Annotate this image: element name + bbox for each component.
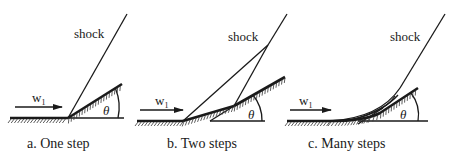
hatch-mark: [295, 122, 298, 126]
shock-line: [400, 14, 445, 88]
hatch-mark: [145, 122, 148, 126]
hatch-mark: [173, 122, 176, 126]
hatch-mark: [285, 122, 288, 126]
hatch-mark: [154, 122, 157, 126]
shock-label: shock: [390, 29, 421, 44]
hatch-mark: [314, 122, 317, 126]
panel-caption: b. Two steps: [167, 136, 237, 151]
hatch-mark: [30, 119, 33, 123]
flow-label: w1: [32, 90, 45, 107]
hatch-mark: [141, 122, 144, 126]
hatch-mark: [56, 119, 59, 123]
angle-label: θ: [103, 103, 110, 118]
hatch-mark: [27, 119, 30, 123]
shock-diagram: shock w1 θ a. One step shock w1 θ b. Two…: [0, 0, 454, 161]
hatch-mark: [138, 122, 141, 126]
hatch-mark: [37, 119, 40, 123]
shock-label: shock: [74, 26, 105, 41]
hatch-mark: [59, 119, 62, 123]
angle-arc: [411, 93, 419, 121]
hatch-mark: [301, 122, 304, 126]
hatch-mark: [164, 122, 167, 126]
hatch-mark: [8, 119, 11, 123]
hatch-mark: [50, 119, 53, 123]
hatch-mark: [43, 119, 46, 123]
hatch-mark: [24, 119, 27, 123]
shock-label: shock: [228, 29, 259, 44]
hatch-mark: [148, 122, 151, 126]
hatch-mark: [320, 122, 323, 126]
hatch-mark: [21, 119, 24, 123]
hatch-mark: [18, 119, 21, 123]
panel-many-steps: shock w1 θ c. Many steps: [287, 14, 445, 151]
hatch-mark: [345, 121, 348, 125]
hatch-mark: [14, 119, 17, 123]
hatch-mark: [40, 119, 43, 123]
hatch-mark: [151, 122, 154, 126]
shock-line-merged: [268, 14, 287, 45]
hatch-mark: [304, 122, 307, 126]
hatch-mark: [341, 122, 344, 126]
hatch-mark: [311, 122, 314, 126]
hatch-mark: [157, 122, 160, 126]
hatch-mark: [351, 121, 354, 125]
flow-label: w1: [155, 93, 168, 110]
hatch-mark: [53, 119, 56, 123]
hatch-mark: [170, 122, 173, 126]
hatch-mark: [46, 119, 49, 123]
hatch-mark: [353, 121, 355, 125]
hatch-mark: [62, 119, 65, 123]
hatch-mark: [161, 122, 164, 126]
angle-arc: [116, 89, 120, 119]
hatch-mark: [323, 122, 326, 126]
hatch-mark: [338, 122, 341, 126]
angle-label: θ: [248, 107, 255, 122]
hatch-mark: [291, 122, 294, 126]
hatch-mark: [331, 122, 334, 126]
hatch-mark: [335, 122, 338, 126]
hatch-mark: [135, 122, 138, 126]
panel-caption: a. One step: [27, 136, 90, 151]
flow-label: w1: [299, 93, 312, 110]
panel-one-step: shock w1 θ a. One step: [10, 14, 127, 151]
hatch-mark: [34, 119, 37, 123]
hatch-mark: [348, 121, 351, 125]
hatch-mark: [307, 122, 310, 126]
hatch-mark: [167, 122, 170, 126]
panel-caption: c. Many steps: [308, 136, 385, 151]
hatch-mark: [288, 122, 291, 126]
angle-label: θ: [400, 107, 407, 122]
hatch-mark: [317, 122, 320, 126]
hatch-mark: [11, 119, 14, 123]
hatch-mark: [177, 122, 180, 126]
panel-two-steps: shock w1 θ b. Two steps: [137, 14, 287, 151]
hatch-mark: [298, 122, 301, 126]
